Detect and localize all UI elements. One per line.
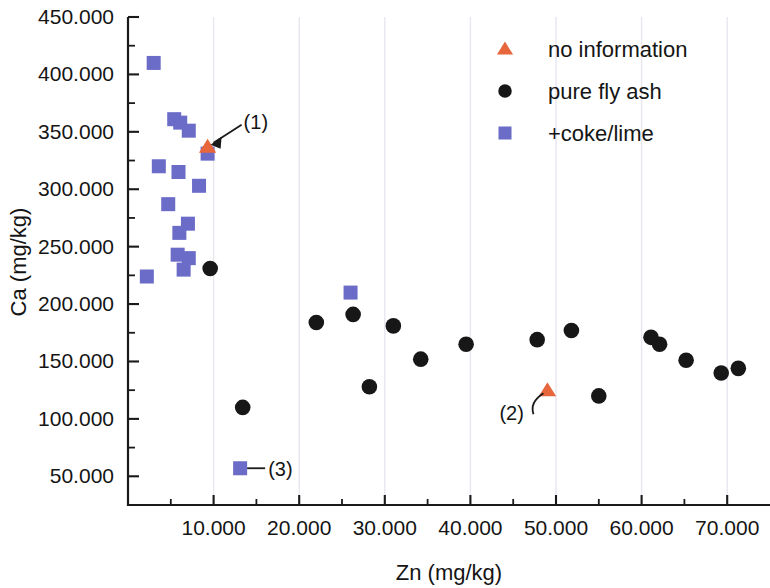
y-tick-label: 400.000 [38,62,114,85]
annotation: (1) [211,111,268,149]
data-point-group [140,56,746,475]
annotation-group: (1)(2)(3) [211,111,544,481]
data-point [235,400,251,416]
data-point [172,226,186,240]
annotation: (3) [247,458,292,480]
axis-lines [128,17,770,505]
data-point [678,353,694,369]
y-axis-title: Ca (mg/kg) [6,208,31,317]
data-point [161,197,175,211]
data-point [182,124,196,138]
data-point [177,263,191,277]
annotation-label: (3) [268,458,292,480]
plot-canvas: 10.00020.00030.00040.00050.00060.00070.0… [0,0,770,588]
data-point [172,165,186,179]
x-axis-title: Zn (mg/kg) [396,560,502,585]
annotation-leader [533,393,544,414]
legend-item-pure-fly-ash[interactable]: pure fly ash [498,79,661,104]
scatter-plot-figure: 10.00020.00030.00040.00050.00060.00070.0… [0,0,770,588]
data-point [731,361,747,377]
data-point [591,388,607,404]
annotation-label: (2) [499,402,523,424]
data-point [362,379,378,395]
y-axis-tick-labels: 50.000100.000150.000200.000250.000300.00… [38,5,114,487]
data-point [147,56,161,70]
legend-item--coke-lime[interactable]: +coke/lime [499,121,654,146]
data-point [192,179,206,193]
data-point [152,159,166,173]
legend-item-label: +coke/lime [548,121,654,146]
legend-item-label: no information [548,37,687,62]
x-axis-tick-labels: 10.00020.00030.00040.00050.00060.00070.0… [181,516,759,539]
data-point [529,332,545,348]
data-point [713,365,729,381]
annotation: (2) [499,393,543,424]
data-point [233,461,247,475]
data-point [309,315,325,331]
data-point [564,323,580,339]
legend: no informationpure fly ash+coke/lime [497,37,687,146]
triangle-icon [497,42,513,55]
series-no-information [199,139,556,396]
y-tick-label: 150.000 [38,349,114,372]
x-tick-label: 30.000 [353,516,417,539]
annotation-label: (1) [244,111,268,133]
x-tick-label: 70.000 [695,516,759,539]
x-tick-label: 40.000 [438,516,502,539]
data-point [202,261,218,277]
legend-item-label: pure fly ash [548,79,662,104]
circle-icon [498,84,512,98]
x-tick-label: 20.000 [267,516,331,539]
x-tick-label: 60.000 [609,516,673,539]
square-icon [499,127,512,140]
data-point [652,336,668,352]
y-tick-label: 250.000 [38,235,114,258]
data-point [386,318,402,334]
y-tick-label: 350.000 [38,120,114,143]
y-tick-label: 450.000 [38,5,114,28]
data-point [413,351,429,367]
data-point [344,286,358,300]
data-point [345,307,361,323]
axis-frame [128,17,770,505]
y-axis-ticks [128,17,139,476]
x-tick-label: 50.000 [524,516,588,539]
series-pure-fly-ash [202,261,746,416]
x-tick-label: 10.000 [181,516,245,539]
y-tick-label: 50.000 [50,464,114,487]
y-tick-label: 300.000 [38,177,114,200]
y-tick-label: 200.000 [38,292,114,315]
data-point [140,270,154,284]
data-point [458,336,474,352]
y-tick-label: 100.000 [38,407,114,430]
x-axis-ticks [171,495,727,505]
legend-item-no-information[interactable]: no information [497,37,687,62]
